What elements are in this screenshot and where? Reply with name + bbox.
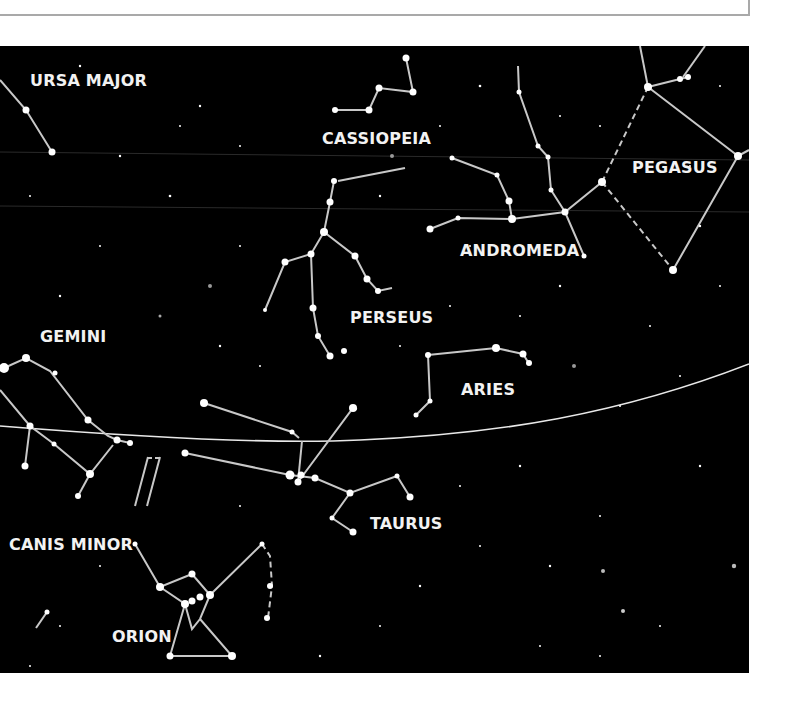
- label-taurus: TAURUS: [370, 514, 443, 533]
- label-ursa-major: URSA MAJOR: [30, 71, 147, 90]
- constellation-labels: URSA MAJOR CASSIOPEIA PEGASUS ANDROMEDA …: [9, 71, 718, 646]
- label-andromeda: ANDROMEDA: [460, 241, 580, 260]
- label-pegasus: PEGASUS: [632, 158, 718, 177]
- star-map-canvas: URSA MAJOR CASSIOPEIA PEGASUS ANDROMEDA …: [0, 46, 749, 673]
- label-orion: ORION: [112, 627, 172, 646]
- label-canis-minor: CANIS MINOR: [9, 535, 133, 554]
- scan-line: [0, 206, 749, 212]
- label-perseus: PERSEUS: [350, 308, 433, 327]
- ecliptic-line: [0, 364, 749, 441]
- star-map: URSA MAJOR CASSIOPEIA PEGASUS ANDROMEDA …: [0, 46, 749, 673]
- label-aries: ARIES: [461, 380, 515, 399]
- label-cassiopeia: CASSIOPEIA: [322, 129, 431, 148]
- top-panel: [0, 0, 750, 16]
- label-gemini: GEMINI: [40, 327, 106, 346]
